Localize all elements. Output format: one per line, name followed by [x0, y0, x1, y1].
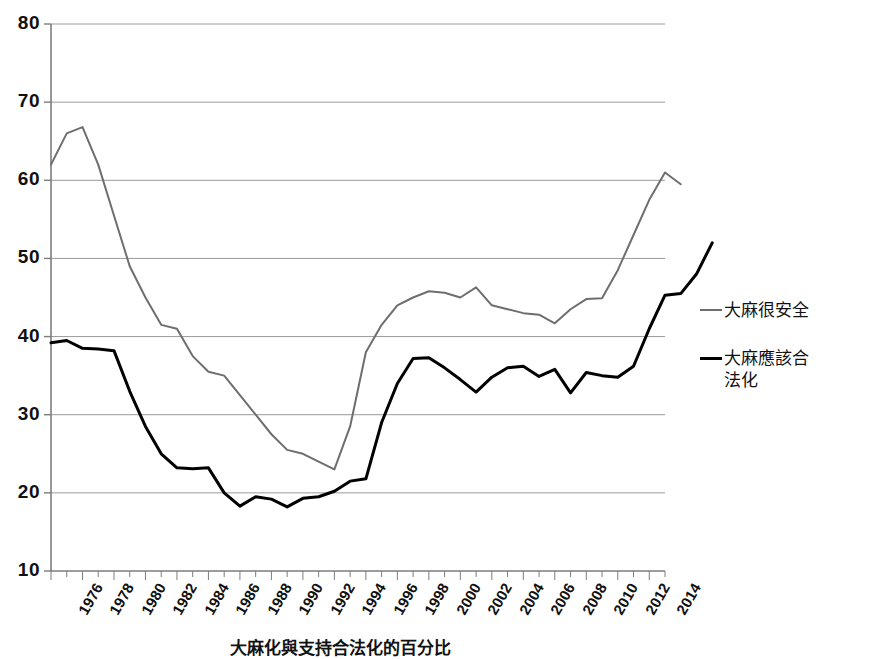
series-line-cannabis-safe — [51, 127, 681, 469]
legend-line-swatch — [700, 309, 722, 311]
legend-label-cannabis-legalize: 大麻應該合法化 — [724, 348, 819, 392]
y-tick-label: 60 — [0, 168, 40, 190]
y-tick-label: 50 — [0, 246, 40, 268]
y-tick-label: 30 — [0, 403, 40, 425]
legend-item-cannabis-safe[interactable]: 大麻很安全 — [700, 300, 809, 322]
legend-swatch-cannabis-legalize — [700, 357, 722, 360]
y-tick-label: 70 — [0, 90, 40, 112]
y-tick-label: 80 — [0, 12, 40, 34]
y-tick-label: 20 — [0, 481, 40, 503]
series-line-cannabis-legalize — [51, 243, 712, 507]
legend-label-cannabis-safe: 大麻很安全 — [724, 300, 809, 322]
figure-caption: 大麻化與支持合法化的百分比 — [230, 634, 451, 659]
legend-line-swatch — [700, 357, 722, 360]
legend-swatch-cannabis-safe — [700, 309, 722, 311]
y-tick-label: 40 — [0, 325, 40, 347]
legend-item-cannabis-legalize[interactable]: 大麻應該合法化 — [700, 348, 819, 392]
y-tick-label: 10 — [0, 559, 40, 581]
